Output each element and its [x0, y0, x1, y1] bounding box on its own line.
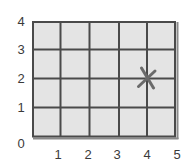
- x-tick-label-5: 5: [173, 147, 180, 162]
- y-tick-label-0: 0: [17, 136, 24, 151]
- y-tick-label-4: 4: [17, 14, 24, 29]
- x-axis-labels: 1 2 3 4 5: [54, 147, 180, 162]
- y-axis-labels: 0 1 2 3 4: [17, 14, 24, 151]
- y-tick-label-3: 3: [17, 42, 24, 57]
- y-tick-label-2: 2: [17, 71, 24, 86]
- x-tick-label-2: 2: [84, 147, 91, 162]
- x-tick-label-1: 1: [54, 147, 61, 162]
- coordinate-grid-figure: 0 1 2 3 4 1 2 3 4 5: [0, 0, 191, 166]
- x-tick-label-4: 4: [143, 147, 150, 162]
- x-tick-label-3: 3: [113, 147, 120, 162]
- y-tick-label-1: 1: [17, 100, 24, 115]
